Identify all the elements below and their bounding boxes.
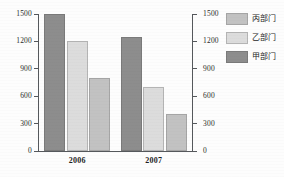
- legend-swatch: [226, 32, 248, 44]
- legend-item: 乙部门: [226, 31, 284, 45]
- y-axis-left-tick-label: 300: [20, 120, 32, 128]
- legend-swatch: [226, 51, 248, 63]
- bars-layer: [39, 14, 192, 151]
- legend-item: 丙部门: [226, 12, 284, 26]
- y-axis-left-tick: [34, 96, 38, 97]
- y-axis-left-tick-label: 900: [20, 65, 32, 73]
- y-axis-right-tick-label: 1500: [203, 10, 219, 18]
- y-axis-right-tick-label: 600: [203, 92, 215, 100]
- legend-label: 甲部门: [252, 52, 276, 62]
- y-axis-left-tick-label: 0: [28, 147, 32, 155]
- bar: [143, 87, 164, 151]
- y-axis-left-tick-label: 600: [20, 92, 32, 100]
- legend-item: 甲部门: [226, 50, 284, 64]
- plot-area: 030060090012001500 030060090012001500 20…: [38, 14, 193, 152]
- y-axis-left-tick: [34, 41, 38, 42]
- y-axis-left-tick: [34, 68, 38, 69]
- bar-chart: 030060090012001500 030060090012001500 20…: [0, 0, 284, 177]
- legend: 丙部门乙部门甲部门: [226, 12, 284, 69]
- y-axis-left-tick-label: 1500: [16, 10, 32, 18]
- legend-swatch: [226, 13, 248, 25]
- y-axis-left-tick-label: 1200: [16, 37, 32, 45]
- legend-label: 乙部门: [252, 33, 276, 43]
- bar: [121, 37, 142, 151]
- y-axis-right-tick: [193, 151, 197, 152]
- y-axis-right-tick: [193, 123, 197, 124]
- y-axis-right-tick-label: 900: [203, 65, 215, 73]
- x-axis-category-label: 2006: [39, 156, 116, 165]
- x-axis-line: [38, 151, 193, 152]
- bar: [44, 14, 65, 151]
- x-axis-category-label: 2007: [116, 156, 193, 165]
- y-axis-right-line: [192, 14, 193, 152]
- y-axis-left-tick: [34, 14, 38, 15]
- y-axis-left-tick: [34, 123, 38, 124]
- y-axis-right-tick-label: 1200: [203, 37, 219, 45]
- y-axis-left-tick: [34, 151, 38, 152]
- y-axis-right-tick: [193, 14, 197, 15]
- y-axis-right-tick-label: 0: [203, 147, 207, 155]
- bar: [67, 41, 88, 151]
- y-axis-right-tick: [193, 96, 197, 97]
- y-axis-right-tick: [193, 68, 197, 69]
- legend-label: 丙部门: [252, 14, 276, 24]
- bar: [89, 78, 110, 151]
- y-axis-right-tick-label: 300: [203, 120, 215, 128]
- y-axis-right-tick: [193, 41, 197, 42]
- bar: [166, 114, 187, 151]
